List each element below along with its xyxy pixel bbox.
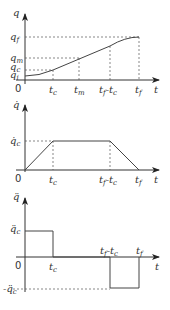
tc-label: tc (49, 174, 57, 187)
t-axis-label: t (155, 261, 160, 272)
tf-minus-tc-label: tf-tc (99, 84, 117, 97)
tf-label: tf (136, 245, 144, 258)
qdot-axis-label: q̇ (13, 99, 19, 110)
tc-label: tc (49, 261, 57, 274)
t-axis-label: t (154, 84, 159, 95)
qddot-axis-label: q̈ (13, 191, 19, 202)
qdc-label: q̇c (10, 135, 20, 148)
position-plot: q qf qm qc qi 0 tc tm tf-tc tf t (10, 7, 159, 97)
origin-label: 0 (15, 260, 21, 271)
accel-negative-segment (110, 257, 139, 288)
qddc-label: q̈c (10, 223, 20, 236)
velocity-plot: q̇ q̇c 0 tc tf-tc tf t (10, 99, 159, 187)
tf-label: tf (135, 84, 143, 97)
tc-label: tc (49, 84, 57, 97)
t-axis-label: t (154, 174, 159, 185)
acceleration-plot: q̈ q̈c -q̈c 0 tc tf-tc tf t (3, 191, 160, 296)
origin-label: 0 (15, 83, 21, 94)
neg-qddc-label: -q̈c (3, 283, 17, 296)
trajectory-profile-diagram: q qf qm qc qi 0 tc tm tf-tc tf t q̇ q̇c … (0, 0, 170, 310)
tf-label: tf (135, 174, 143, 187)
accel-positive-segment (25, 231, 110, 257)
tf-minus-tc-label: tf-tc (100, 245, 118, 258)
qf-label: qf (10, 31, 20, 44)
velocity-curve (25, 141, 139, 170)
q-axis-label: q (13, 7, 19, 18)
origin-label: 0 (15, 173, 21, 184)
tf-minus-tc-label: tf-tc (99, 174, 117, 187)
tm-label: tm (74, 84, 85, 97)
